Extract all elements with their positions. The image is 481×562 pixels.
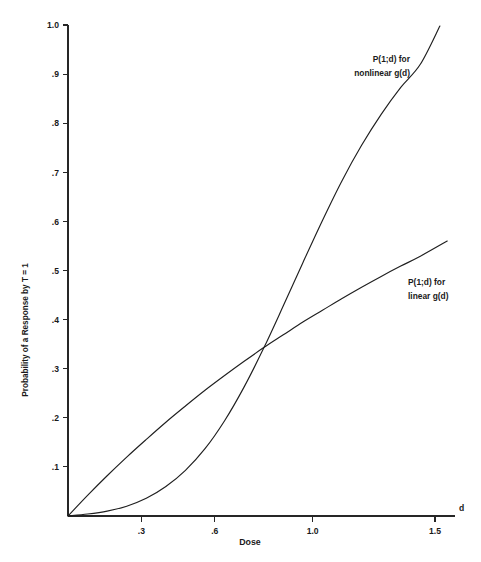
y-tick-label: .8 xyxy=(52,118,59,128)
series-line-linear xyxy=(68,241,447,516)
y-tick-label: .1 xyxy=(52,462,59,472)
y-axis-title: Probability of a Response by T = 1 xyxy=(21,263,30,397)
x-axis-ticks: .3.61.01.5 xyxy=(138,516,441,536)
series-line-nonlinear xyxy=(68,26,440,516)
data-curves xyxy=(68,26,447,516)
y-tick-label: .7 xyxy=(52,168,59,178)
x-tick-label: .3 xyxy=(138,526,145,536)
y-tick-label: .9 xyxy=(52,69,59,79)
y-tick-label: .2 xyxy=(52,413,59,423)
axes-group xyxy=(68,25,455,516)
nonlinear-annotation-line2: nonlinear g(d) xyxy=(354,68,410,78)
x-tick-label: .6 xyxy=(211,526,218,536)
nonlinear-annotation: P(1;d) for nonlinear g(d) xyxy=(354,54,411,78)
y-tick-label: 1.0 xyxy=(47,20,59,30)
x-tick-label: 1.0 xyxy=(307,526,319,536)
chart-figure: .1.2.3.4.5.6.7.8.91.0 .3.61.01.5 Dose d … xyxy=(0,0,481,562)
y-axis-ticks: .1.2.3.4.5.6.7.8.91.0 xyxy=(47,20,68,472)
x-axis-title: Dose xyxy=(239,537,261,547)
linear-annotation-line2: linear g(d) xyxy=(408,291,449,301)
y-tick-label: .4 xyxy=(52,315,59,325)
linear-annotation: P(1;d) for linear g(d) xyxy=(408,277,449,301)
x-tick-label: 1.5 xyxy=(429,526,441,536)
y-tick-label: .5 xyxy=(52,266,59,276)
linear-annotation-line1: P(1;d) for xyxy=(408,277,446,287)
x-axis-symbol-label: d xyxy=(459,503,464,513)
nonlinear-annotation-line1: P(1;d) for xyxy=(373,54,411,64)
plot-area: .1.2.3.4.5.6.7.8.91.0 .3.61.01.5 Dose d … xyxy=(0,0,481,562)
y-tick-label: .3 xyxy=(52,364,59,374)
y-tick-label: .6 xyxy=(52,217,59,227)
